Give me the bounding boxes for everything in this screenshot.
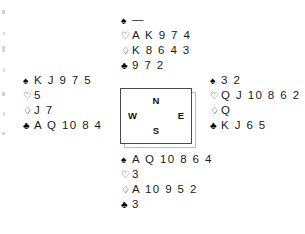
heart-icon: ♡ — [210, 88, 221, 103]
scan-speck — [2, 10, 5, 14]
club-icon: ♣ — [210, 118, 221, 133]
south-spade-row: ♠ A Q 10 8 6 4 — [121, 152, 213, 167]
spade-icon: ♠ — [23, 73, 34, 88]
scan-speck — [2, 92, 5, 96]
west-diamond-cards: J 7 — [34, 103, 54, 118]
south-club-cards: 3 — [132, 197, 140, 212]
compass-label-south: S — [121, 126, 191, 136]
north-diamond-row: ♢ K 8 6 4 3 — [121, 43, 191, 58]
spade-icon: ♠ — [210, 73, 221, 88]
west-diamond-row: ♢ J 7 — [23, 103, 102, 118]
compass-box-frame: N W E S — [120, 88, 192, 144]
heart-icon: ♡ — [23, 88, 34, 103]
scan-edge-artifacts — [0, 0, 12, 234]
scan-speck — [3, 68, 5, 72]
west-club-row: ♣ A Q 10 8 4 — [23, 118, 102, 133]
compass-box: N W E S — [120, 88, 192, 144]
scan-speck — [3, 32, 5, 35]
north-club-cards: 9 7 2 — [132, 58, 165, 73]
scan-speck — [2, 132, 5, 135]
east-club-cards: K J 6 5 — [221, 118, 267, 133]
south-heart-cards: 3 — [132, 167, 140, 182]
south-diamond-row: ♢ A 10 9 5 2 — [121, 182, 213, 197]
scan-speck — [2, 46, 5, 52]
north-club-row: ♣ 9 7 2 — [121, 58, 191, 73]
east-diamond-row: ♢ Q — [210, 103, 300, 118]
club-icon: ♣ — [23, 118, 34, 133]
diamond-icon: ♢ — [121, 43, 132, 58]
west-club-cards: A Q 10 8 4 — [34, 118, 102, 133]
north-spade-row: ♠ — — [121, 13, 191, 28]
east-heart-row: ♡ Q J 10 8 6 2 — [210, 88, 300, 103]
spade-icon: ♠ — [121, 152, 132, 167]
hand-west: ♠ K J 9 7 5 ♡ 5 ♢ J 7 ♣ A Q 10 8 4 — [23, 73, 102, 133]
bridge-deal-diagram: ♠ — ♡ A K 9 7 4 ♢ K 8 6 4 3 ♣ 9 7 2 ♠ K … — [0, 0, 305, 234]
east-club-row: ♣ K J 6 5 — [210, 118, 300, 133]
heart-icon: ♡ — [121, 167, 132, 182]
west-spade-row: ♠ K J 9 7 5 — [23, 73, 102, 88]
west-spade-cards: K J 9 7 5 — [34, 73, 92, 88]
west-heart-cards: 5 — [34, 88, 42, 103]
club-icon: ♣ — [121, 197, 132, 212]
north-diamond-cards: K 8 6 4 3 — [132, 43, 191, 58]
north-spade-cards: — — [132, 12, 144, 27]
south-club-row: ♣ 3 — [121, 197, 213, 212]
diamond-icon: ♢ — [23, 103, 34, 118]
east-diamond-cards: Q — [221, 103, 231, 118]
east-spade-row: ♠ 3 2 — [210, 73, 300, 88]
north-heart-cards: A K 9 7 4 — [132, 28, 191, 43]
diamond-icon: ♢ — [121, 182, 132, 197]
hand-east: ♠ 3 2 ♡ Q J 10 8 6 2 ♢ Q ♣ K J 6 5 — [210, 73, 300, 133]
hand-south: ♠ A Q 10 8 6 4 ♡ 3 ♢ A 10 9 5 2 ♣ 3 — [121, 152, 213, 212]
east-heart-cards: Q J 10 8 6 2 — [221, 88, 300, 103]
scan-speck — [3, 112, 5, 116]
hand-north: ♠ — ♡ A K 9 7 4 ♢ K 8 6 4 3 ♣ 9 7 2 — [121, 13, 191, 73]
west-heart-row: ♡ 5 — [23, 88, 102, 103]
south-spade-cards: A Q 10 8 6 4 — [132, 152, 213, 167]
south-heart-row: ♡ 3 — [121, 167, 213, 182]
club-icon: ♣ — [121, 58, 132, 73]
north-heart-row: ♡ A K 9 7 4 — [121, 28, 191, 43]
spade-icon: ♠ — [121, 13, 132, 28]
east-spade-cards: 3 2 — [221, 73, 241, 88]
heart-icon: ♡ — [121, 28, 132, 43]
diamond-icon: ♢ — [210, 103, 221, 118]
south-diamond-cards: A 10 9 5 2 — [132, 182, 198, 197]
